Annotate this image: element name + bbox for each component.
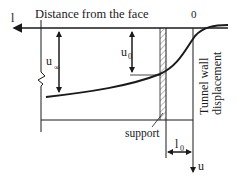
diagram-svg: Distance from the face l 0 u ∞ u 0 suppo… [0, 0, 239, 181]
l0-subscript: 0 [180, 144, 184, 153]
u-inf-subscript: ∞ [54, 63, 60, 72]
u0-label: u [121, 45, 127, 59]
u-inf-label: u [46, 54, 52, 68]
vertical-label-line2: displacement [210, 51, 224, 115]
origin-label: 0 [191, 8, 197, 20]
vertical-label-line1: Tunnel wall [197, 57, 211, 115]
u0-subscript: 0 [128, 52, 132, 61]
displacement-diagram: Distance from the face l 0 u ∞ u 0 suppo… [0, 0, 239, 181]
support-label: support [125, 127, 160, 140]
axis-l-label: l [11, 11, 15, 25]
distance-axis-title: Distance from the face [35, 7, 149, 21]
l0-label: l [175, 137, 179, 151]
u-axis-label: u [198, 159, 204, 173]
left-boundary-line [38, 20, 45, 132]
